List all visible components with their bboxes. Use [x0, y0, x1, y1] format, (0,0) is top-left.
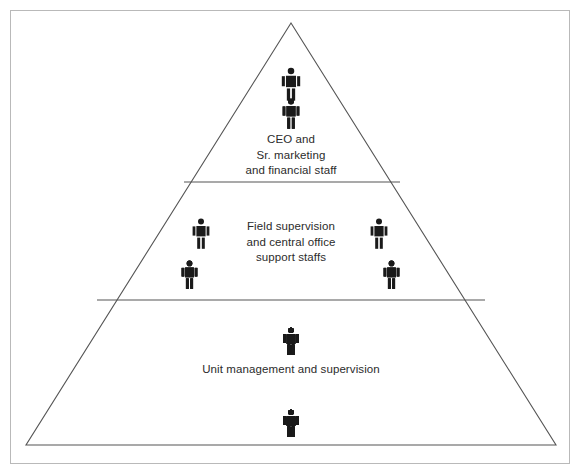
person-pictogram	[282, 409, 300, 438]
tier-1-label: CEO and Sr. marketing and financial staf…	[201, 132, 381, 179]
person-pictogram	[282, 327, 300, 356]
diagram-canvas: CEO and Sr. marketing and financial staf…	[0, 0, 582, 476]
person-pictogram	[180, 260, 199, 290]
person-pictogram	[382, 260, 401, 290]
person-pictogram	[281, 98, 301, 130]
figure-group-tier3	[104, 308, 478, 356]
tier-2-label: Field supervision and central office sup…	[216, 219, 366, 266]
figure-group-apex-bottom	[248, 84, 334, 130]
tier-3-label: Unit management and supervision	[141, 362, 441, 378]
figure-group-tier4	[60, 388, 522, 438]
